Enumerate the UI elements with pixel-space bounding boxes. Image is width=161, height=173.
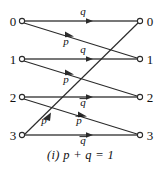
node-right-1-label: 1 [147, 52, 154, 67]
arrowhead-l1-r1 [86, 56, 93, 62]
edge-label-l3-r3: q [80, 134, 86, 146]
node-left-0[interactable] [19, 18, 24, 23]
edge-label-group: q p q p q p q p [40, 5, 86, 146]
node-left-2[interactable] [19, 94, 24, 99]
figure-caption: (i) p + q = 1 [0, 148, 161, 163]
edge-label-l1-r1: q [80, 43, 86, 55]
caption-expression: p + q = 1 [63, 148, 114, 162]
node-left-2-label: 2 [10, 90, 17, 105]
node-right-0[interactable] [137, 18, 142, 23]
edge-l1-r2 [24, 61, 137, 96]
node-left-3[interactable] [19, 132, 24, 137]
node-left-0-label: 0 [10, 14, 17, 29]
left-node-group: 0 1 2 3 [10, 14, 25, 143]
node-right-2-label: 2 [147, 90, 154, 105]
caption-index: (i) [47, 148, 60, 162]
node-right-3[interactable] [137, 132, 142, 137]
node-right-2[interactable] [137, 94, 142, 99]
node-left-1[interactable] [19, 56, 24, 61]
edge-label-l3-r0: p [40, 114, 47, 126]
arrowhead-l0-r0 [86, 18, 93, 24]
arrowhead-l2-r2 [86, 94, 93, 100]
arrowhead-l3-r3 [86, 132, 93, 138]
edge-label-l1-r2: p [62, 73, 69, 85]
edge-label-l2-r2: q [80, 96, 86, 108]
node-left-3-label: 3 [10, 128, 17, 143]
right-node-group: 0 1 2 3 [137, 14, 153, 143]
node-right-0-label: 0 [147, 14, 154, 29]
edge-label-l0-r1: p [62, 35, 69, 47]
node-left-1-label: 1 [10, 52, 17, 67]
edge-label-l0-r0: q [80, 5, 86, 17]
node-right-1[interactable] [137, 56, 142, 61]
transition-diagram-figure: 0 1 2 3 0 1 2 3 q p q p q p q [0, 0, 161, 173]
node-right-3-label: 3 [147, 128, 154, 143]
